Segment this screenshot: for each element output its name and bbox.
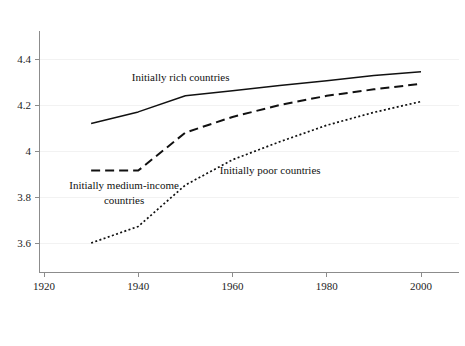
data-series-group	[91, 72, 421, 243]
series-annotation-label: Initially poor countries	[220, 164, 321, 176]
x-tick-label: 2000	[410, 280, 433, 292]
x-tick-label: 1940	[127, 280, 150, 292]
y-tick-label: 3.8	[17, 191, 31, 203]
line-chart-svg: 3.63.844.24.4 19201940196019802000 Initi…	[0, 0, 465, 346]
series-annotations-group: Initially rich countriesInitially medium…	[69, 71, 320, 207]
x-tick-label: 1980	[316, 280, 339, 292]
axes-group	[39, 31, 459, 273]
x-tick-label: 1960	[222, 280, 245, 292]
y-tick-label: 4.2	[17, 99, 31, 111]
x-tick-label: 1920	[33, 280, 56, 292]
x-axis-ticks: 19201940196019802000	[33, 273, 433, 292]
series-annotation-label: Initially rich countries	[132, 71, 230, 83]
y-tick-label: 3.6	[17, 237, 31, 249]
series-annotation-label: countries	[104, 194, 144, 206]
y-axis-ticks: 3.63.844.24.4	[17, 53, 39, 249]
series-line-dashed	[91, 84, 421, 171]
series-annotation-label: Initially medium-income	[69, 179, 179, 191]
y-tick-label: 4	[26, 145, 32, 157]
y-tick-label: 4.4	[17, 53, 31, 65]
chart-figure: 3.63.844.24.4 19201940196019802000 Initi…	[0, 0, 465, 346]
